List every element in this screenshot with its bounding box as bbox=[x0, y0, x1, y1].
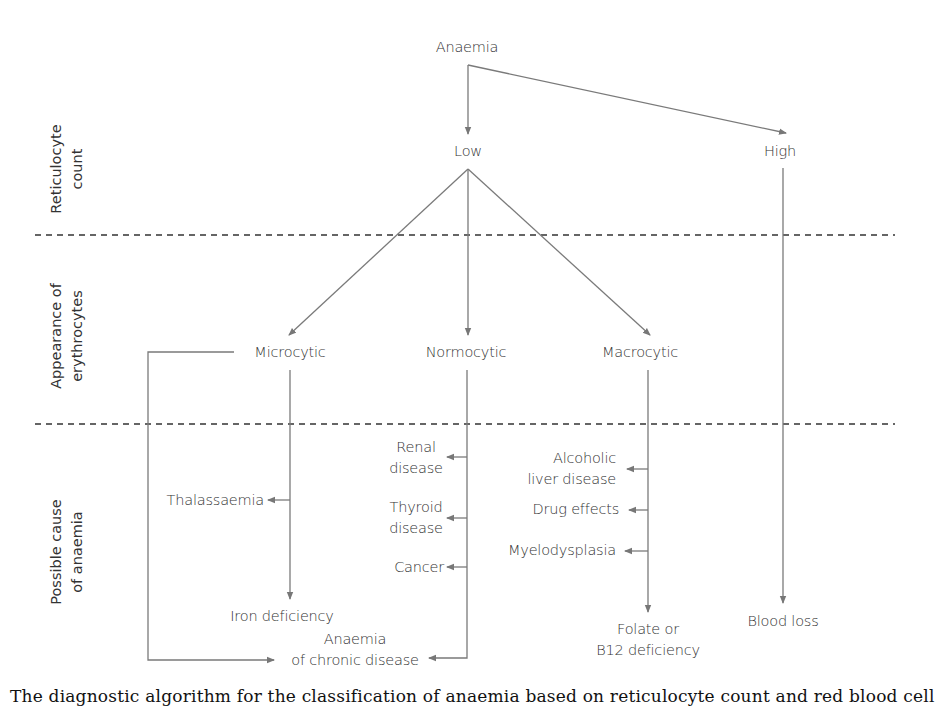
node-blood-loss: Blood loss bbox=[747, 611, 818, 632]
node-line: of chronic disease bbox=[291, 650, 419, 671]
row-label-reticulocyte-count: Reticulocyte count bbox=[46, 124, 88, 213]
node-drug-effects: Drug effects bbox=[533, 499, 620, 520]
node-line: disease bbox=[389, 518, 443, 539]
node-iron-deficiency: Iron deficiency bbox=[230, 606, 334, 627]
edge-low-macrocytic bbox=[468, 169, 650, 335]
row-label-line: Possible cause bbox=[46, 499, 67, 605]
node-line: Folate or bbox=[596, 619, 700, 640]
figure-caption-partial: The diagnostic algorithm for the classif… bbox=[10, 686, 935, 706]
node-line: disease bbox=[389, 458, 443, 479]
row-label-cause: Possible cause of anaemia bbox=[46, 499, 88, 605]
row-label-line: of anaemia bbox=[67, 499, 88, 605]
node-thyroid-disease: Thyroid disease bbox=[389, 497, 443, 539]
row-label-appearance: Appearance of erythrocytes bbox=[46, 283, 88, 389]
node-microcytic: Microcytic bbox=[254, 342, 325, 363]
node-line: B12 deficiency bbox=[596, 640, 700, 661]
edge-anaemia-high bbox=[468, 65, 786, 133]
node-anaemia-chronic-disease: Anaemia of chronic disease bbox=[291, 629, 419, 671]
node-normocytic: Normocytic bbox=[426, 342, 507, 363]
node-line: Renal bbox=[389, 437, 443, 458]
node-myelodysplasia: Myelodysplasia bbox=[508, 540, 616, 561]
node-high: High bbox=[764, 141, 796, 162]
node-line: Anaemia bbox=[291, 629, 419, 650]
node-thalassaemia: Thalassaemia bbox=[167, 490, 264, 511]
node-renal-disease: Renal disease bbox=[389, 437, 443, 479]
node-alcoholic-liver-disease: Alcoholic liver disease bbox=[527, 448, 616, 490]
node-cancer: Cancer bbox=[394, 557, 444, 578]
edge-low-microcytic bbox=[289, 169, 468, 335]
node-line: liver disease bbox=[527, 469, 616, 490]
row-label-line: count bbox=[67, 124, 88, 213]
node-low: Low bbox=[454, 141, 482, 162]
node-anaemia: Anaemia bbox=[436, 37, 499, 58]
row-label-line: erythrocytes bbox=[67, 283, 88, 389]
node-folate-b12-deficiency: Folate or B12 deficiency bbox=[596, 619, 700, 661]
node-line: Alcoholic bbox=[527, 448, 616, 469]
row-label-line: Reticulocyte bbox=[46, 124, 67, 213]
node-line: Thyroid bbox=[389, 497, 443, 518]
node-macrocytic: Macrocytic bbox=[602, 342, 678, 363]
row-label-line: Appearance of bbox=[46, 283, 67, 389]
